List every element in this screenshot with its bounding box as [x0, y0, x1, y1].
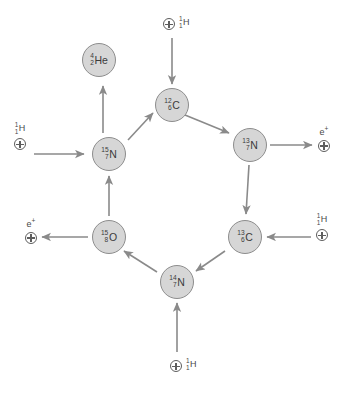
node-n15[interactable]: 15 7 N — [92, 137, 126, 171]
proton-label: 1 1 H — [186, 358, 197, 371]
element-symbol: H — [19, 123, 26, 133]
element-symbol: N — [109, 149, 117, 160]
element-symbol: He — [94, 55, 107, 66]
positron-charge: + — [32, 217, 36, 224]
arrow-layer — [0, 0, 354, 393]
circled-plus-icon — [14, 138, 26, 150]
atomic-number: 1 — [317, 220, 321, 227]
circled-plus-icon — [318, 140, 330, 152]
atomic-number: 2 — [90, 60, 94, 67]
nuclide-c13: 13 6 C — [237, 230, 253, 244]
circled-plus-icon — [163, 18, 175, 30]
element-symbol: H — [183, 17, 190, 27]
element-symbol: H — [321, 214, 328, 224]
cno-cycle-diagram: 12 6 C 13 7 N 13 6 C 14 7 — [0, 0, 354, 393]
particle-positron-left[interactable]: e+ — [25, 218, 37, 244]
particle-proton-left[interactable]: 1 1 H — [14, 122, 26, 150]
positron-label: e+ — [27, 218, 36, 229]
nuclide-he4: 4 2 He — [90, 53, 108, 67]
circled-plus-icon — [316, 229, 328, 241]
nuclide-n14: 14 7 N — [169, 275, 185, 289]
nuclide-o15: 15 8 O — [101, 230, 117, 244]
particle-proton-right[interactable]: 1 1 H — [316, 213, 328, 241]
proton-label: 1 1 H — [317, 213, 328, 226]
nuclide-n13: 13 7 N — [242, 138, 258, 152]
particle-proton-bottom[interactable]: 1 1 H — [170, 358, 197, 374]
atomic-number: 8 — [105, 237, 109, 244]
element-symbol: C — [245, 232, 253, 243]
atomic-number: 1 — [15, 129, 19, 136]
circled-plus-icon — [170, 360, 182, 372]
arrow-n13-to-c13 — [246, 165, 249, 214]
particle-positron-right[interactable]: e+ — [318, 126, 330, 152]
arrow-n14-to-o15 — [124, 251, 157, 272]
arrow-c12-to-n13 — [185, 115, 229, 133]
element-symbol: C — [172, 100, 180, 111]
atomic-number: 7 — [105, 154, 109, 161]
node-he4[interactable]: 4 2 He — [82, 43, 116, 77]
positron-charge: + — [325, 125, 329, 132]
node-n13[interactable]: 13 7 N — [233, 128, 267, 162]
node-n14[interactable]: 14 7 N — [160, 265, 194, 299]
atomic-number: 7 — [246, 145, 250, 152]
node-c13[interactable]: 13 6 C — [228, 220, 262, 254]
circled-plus-icon — [25, 232, 37, 244]
element-symbol: H — [190, 359, 197, 369]
proton-label: 1 1 H — [15, 122, 26, 135]
element-symbol: N — [250, 140, 258, 151]
proton-label: 1 1 H — [179, 16, 190, 29]
element-symbol: O — [109, 232, 117, 243]
atomic-number: 7 — [173, 282, 177, 289]
positron-label: e+ — [320, 126, 329, 137]
element-symbol: N — [177, 277, 185, 288]
node-c12[interactable]: 12 6 C — [155, 88, 189, 122]
nuclide-c12: 12 6 C — [164, 98, 180, 112]
particle-proton-top[interactable]: 1 1 H — [163, 16, 190, 32]
arrow-n15-to-c12 — [128, 113, 153, 140]
atomic-number: 6 — [241, 237, 245, 244]
arrow-c13-to-n14 — [196, 251, 225, 271]
atomic-number: 6 — [168, 105, 172, 112]
node-o15[interactable]: 15 8 O — [92, 220, 126, 254]
nuclide-n15: 15 7 N — [101, 147, 117, 161]
